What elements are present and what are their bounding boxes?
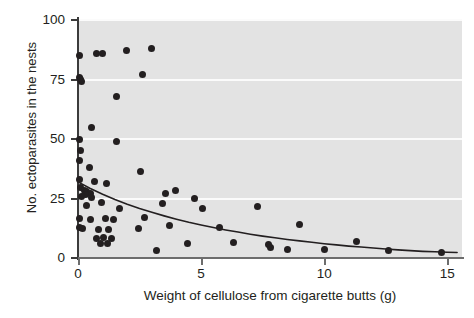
data-point [137,168,144,175]
data-point [113,93,120,100]
data-point [172,187,179,194]
y-axis-title: No. ectoparasites in the nests [24,13,39,243]
data-point [199,205,206,212]
y-tick-label-25: 25 [21,192,65,206]
data-point [113,138,120,145]
data-point [166,222,173,229]
data-point [216,224,223,231]
x-axis-title: Weight of cellulose from cigarette butts… [78,288,462,303]
data-point [321,246,328,253]
data-point [123,47,130,54]
data-point [230,239,237,246]
data-point [438,249,445,256]
data-point [103,180,110,187]
data-point [139,71,146,78]
data-point [88,124,95,131]
y-tick-label-100: 100 [21,13,65,27]
data-point [76,136,83,143]
data-point [353,238,360,245]
data-point [76,157,83,164]
data-point [98,199,105,206]
y-tick-label-50: 50 [21,132,65,146]
data-point [385,247,392,254]
data-point [91,178,98,185]
data-point [99,50,106,57]
x-tick-label-15: 15 [427,267,467,281]
data-point [135,225,142,232]
data-point [116,205,123,212]
x-tick-label-10: 10 [304,267,344,281]
data-point [284,246,291,253]
data-point [76,176,83,183]
y-tick-label-0: 0 [21,251,65,265]
data-point [141,214,148,221]
x-tick-label-5: 5 [181,267,221,281]
data-point [76,52,83,59]
data-point [78,193,85,200]
data-point [97,240,104,247]
x-tick-label-0: 0 [58,267,98,281]
data-point [88,194,95,201]
y-tick-label-75: 75 [21,73,65,87]
data-point [76,215,83,222]
data-point [102,215,109,222]
data-point [267,244,274,251]
scatter-plot-figure: Weight of cellulose from cigarette butts… [0,0,474,318]
data-point [86,164,93,171]
